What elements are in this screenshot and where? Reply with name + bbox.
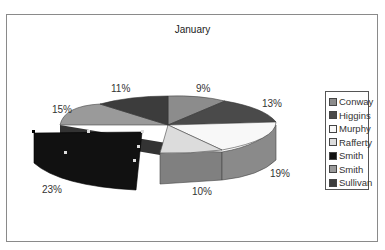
legend-swatch bbox=[329, 125, 337, 133]
slice-side-rafferty bbox=[160, 150, 222, 184]
selection-handle[interactable] bbox=[87, 130, 90, 133]
legend-item: Higgins bbox=[329, 109, 368, 123]
selection-handle[interactable] bbox=[32, 130, 35, 133]
legend-swatch bbox=[329, 165, 337, 173]
data-label: 11% bbox=[111, 83, 130, 94]
legend-swatch bbox=[329, 111, 337, 119]
legend-swatch bbox=[329, 98, 337, 106]
data-label: 10% bbox=[192, 186, 212, 197]
legend-item: Smith bbox=[329, 163, 368, 177]
legend-item: Sullivan bbox=[329, 176, 368, 190]
legend[interactable]: Conway Higgins Murphy Rafferty Smith Smi… bbox=[325, 91, 369, 190]
slice-smith-23-exploded[interactable] bbox=[34, 132, 142, 190]
selection-handle[interactable] bbox=[141, 130, 144, 133]
data-label: 23% bbox=[42, 184, 62, 195]
data-label: 19% bbox=[270, 168, 290, 179]
legend-swatch bbox=[329, 179, 337, 187]
legend-item: Murphy bbox=[329, 122, 368, 136]
legend-swatch bbox=[329, 138, 337, 146]
selection-handle[interactable] bbox=[137, 145, 140, 148]
legend-item: Rafferty bbox=[329, 136, 368, 150]
legend-item: Conway bbox=[329, 95, 368, 109]
selection-handle[interactable] bbox=[133, 159, 136, 162]
data-label: 15% bbox=[52, 104, 72, 115]
data-label: 13% bbox=[262, 98, 282, 109]
legend-item: Smith bbox=[329, 149, 368, 163]
selection-handle[interactable] bbox=[64, 151, 67, 154]
data-label: 9% bbox=[196, 83, 210, 94]
legend-swatch bbox=[329, 152, 337, 160]
